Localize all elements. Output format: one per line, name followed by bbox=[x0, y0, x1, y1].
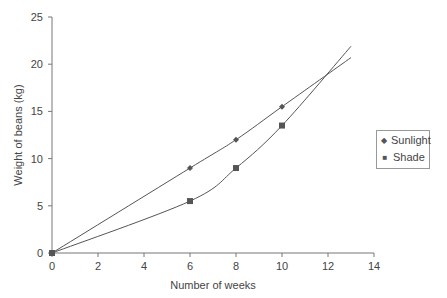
x-axis-title: Number of weeks bbox=[170, 279, 256, 291]
x-tick-label: 0 bbox=[49, 260, 55, 272]
y-tick-label: 10 bbox=[31, 153, 43, 165]
x-tick-label: 10 bbox=[276, 260, 288, 272]
y-tick-label: 25 bbox=[31, 11, 43, 23]
axes: 024681012140510152025 bbox=[31, 11, 380, 272]
series-layer bbox=[49, 46, 351, 256]
legend-label: Sunlight bbox=[391, 134, 431, 146]
x-tick-label: 6 bbox=[187, 260, 193, 272]
legend-label: Shade bbox=[393, 151, 425, 163]
square-marker-icon: ■ bbox=[381, 153, 389, 162]
x-tick-label: 12 bbox=[322, 260, 334, 272]
square-marker-icon bbox=[187, 198, 193, 204]
series-line-sunlight bbox=[52, 58, 351, 253]
x-tick-label: 4 bbox=[141, 260, 147, 272]
x-tick-label: 14 bbox=[368, 260, 380, 272]
y-tick-label: 20 bbox=[31, 58, 43, 70]
y-tick-label: 0 bbox=[37, 247, 43, 259]
y-axis-title: Weight of beans (kg) bbox=[12, 84, 24, 185]
diamond-marker-icon: ◆ bbox=[381, 136, 387, 145]
diamond-marker-icon bbox=[187, 165, 193, 171]
square-marker-icon bbox=[279, 123, 285, 129]
diamond-marker-icon bbox=[233, 137, 239, 143]
square-marker-icon bbox=[49, 250, 55, 256]
x-tick-label: 2 bbox=[95, 260, 101, 272]
legend: ◆ Sunlight ■ Shade bbox=[376, 130, 430, 169]
square-marker-icon bbox=[233, 165, 239, 171]
y-tick-label: 15 bbox=[31, 105, 43, 117]
series-line-shade bbox=[52, 46, 351, 253]
y-tick-label: 5 bbox=[37, 200, 43, 212]
legend-item-sunlight: ◆ Sunlight bbox=[377, 132, 429, 148]
legend-item-shade: ■ Shade bbox=[377, 149, 429, 165]
x-tick-label: 8 bbox=[233, 260, 239, 272]
